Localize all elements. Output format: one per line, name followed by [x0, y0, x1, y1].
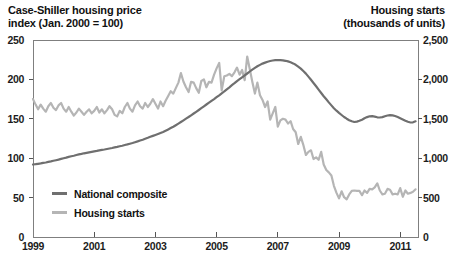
x-tick-label: 2005: [201, 241, 233, 252]
x-tick-label: 2007: [262, 241, 294, 252]
y-left-tick-label: 200: [0, 74, 24, 85]
x-tick-label: 2001: [78, 241, 110, 252]
y-right-tick-label: 2,000: [423, 74, 452, 85]
x-tick-label: 2003: [139, 241, 171, 252]
legend-item-national-composite: National composite: [52, 184, 167, 203]
y-right-tick-label: 500: [423, 193, 452, 204]
housing-starts-swatch: [52, 211, 67, 214]
y-right-tick-label: 1,500: [423, 114, 452, 125]
housing-starts-line: [33, 57, 416, 200]
legend-label: National composite: [74, 188, 167, 200]
plot-area: [0, 0, 452, 266]
y-right-tick-label: 0: [423, 232, 452, 243]
legend: National composite Housing starts: [52, 184, 167, 222]
chart-figure: Case-Shiller housing price index (Jan. 2…: [0, 0, 452, 266]
x-tick-label: 1999: [17, 241, 49, 252]
x-tick-label: 2009: [323, 241, 355, 252]
y-right-tick-label: 2,500: [423, 35, 452, 46]
y-left-tick-label: 50: [0, 193, 24, 204]
national-composite-swatch: [52, 192, 67, 195]
x-tick-label: 2011: [384, 241, 416, 252]
y-left-tick-label: 150: [0, 114, 24, 125]
legend-item-housing-starts: Housing starts: [52, 203, 167, 222]
y-left-tick-label: 100: [0, 153, 24, 164]
y-left-tick-label: 250: [0, 35, 24, 46]
y-right-tick-label: 1,000: [423, 153, 452, 164]
legend-label: Housing starts: [74, 207, 145, 219]
